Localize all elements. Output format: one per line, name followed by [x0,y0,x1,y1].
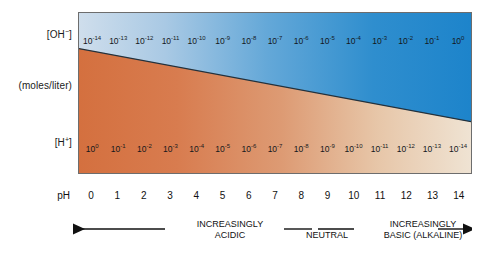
annotation-acidic: INCREASINGLY ACIDIC [170,219,290,240]
annotation-acidic-line2: ACIDIC [215,230,246,240]
ph-tick: 11 [367,190,393,201]
ph-tick: 8 [288,190,314,201]
annotation-basic: INCREASINGLY BASIC (ALKALINE) [348,219,480,240]
ph-axis-label: pH [57,190,70,201]
ph-tick: 10 [341,190,367,201]
scale-direction-annotations: INCREASINGLY ACIDIC NEUTRAL INCREASINGLY… [60,218,472,252]
ph-tick: 12 [393,190,419,201]
annotation-basic-line2: BASIC (ALKALINE) [384,230,463,240]
ph-tick: 5 [209,190,235,201]
ph-tick: 9 [314,190,340,201]
ph-tick: 14 [446,190,472,201]
gradient-regions [79,13,471,173]
axis-label-hydroxide: [OH−] [47,28,72,40]
ph-tick: 7 [262,190,288,201]
annotation-basic-line1: INCREASINGLY [390,219,456,229]
ph-tick: 2 [131,190,157,201]
ph-tick: 0 [78,190,104,201]
ph-scale-figure: [OH−] (moles/liter) [H+] [0,0,480,255]
ph-tick: 4 [183,190,209,201]
ph-tick: 13 [419,190,445,201]
ph-tick-row: 0 1 2 3 4 5 6 7 8 9 10 11 12 13 14 [78,190,472,201]
axis-label-units: (moles/liter) [18,80,72,91]
ph-gradient-panel: 10-14 10-13 10-12 10-11 10-10 10-9 10-8 … [78,12,472,174]
axis-label-hydrogen: [H+] [55,136,72,148]
ph-tick: 6 [236,190,262,201]
ph-tick: 1 [104,190,130,201]
annotation-acidic-line1: INCREASINGLY [197,219,263,229]
ph-tick: 3 [157,190,183,201]
